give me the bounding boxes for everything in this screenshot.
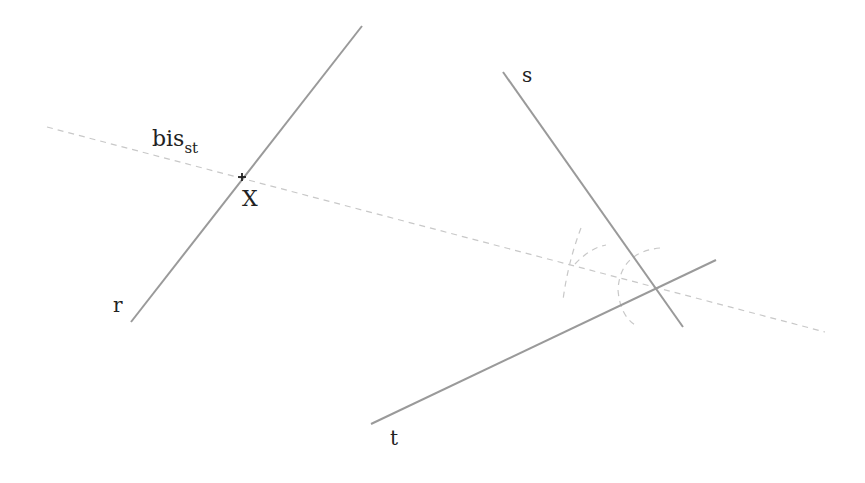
bisector-label: bisst [152, 126, 198, 157]
geometry-diagram: r s t bisst X [0, 0, 865, 483]
bisector-line [47, 127, 825, 332]
line-r [131, 26, 362, 322]
construction-arc [575, 245, 606, 264]
bisector-label-main: bis [152, 126, 184, 151]
line-r-label: r [113, 293, 123, 317]
line-t-label: t [390, 426, 398, 450]
line-s-label: s [522, 63, 532, 87]
line-t [371, 260, 716, 424]
construction-arc [563, 228, 581, 300]
point-x-marker [238, 173, 246, 181]
bisector-label-subscript: st [184, 139, 198, 157]
point-x-label: X [242, 186, 258, 211]
